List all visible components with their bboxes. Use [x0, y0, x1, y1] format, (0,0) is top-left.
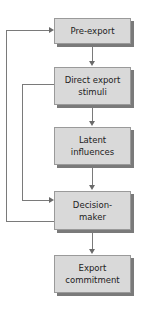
arrow-down-icon: [89, 249, 95, 254]
outer-loop-bottom: [6, 221, 54, 222]
inner-loop-bottom: [22, 200, 50, 201]
node-label: Pre-export: [70, 25, 114, 37]
arrow-down-icon: [89, 61, 95, 66]
outer-loop-vertical: [6, 30, 7, 222]
node-pre-export: Pre-export: [54, 18, 131, 44]
node-label: Exportcommitment: [65, 262, 119, 286]
arrow-right-icon: [49, 197, 54, 203]
node-label: Decision-maker: [73, 199, 112, 223]
inner-loop-top: [22, 84, 54, 85]
inner-loop-vertical: [22, 84, 23, 201]
arrow-down-icon: [89, 121, 95, 126]
arrow-right-icon: [49, 27, 54, 33]
node-label: Direct exportstimuli: [65, 74, 121, 98]
arrow-down-icon: [89, 185, 95, 190]
node-direct-export-stimuli: Direct exportstimuli: [54, 67, 131, 105]
node-decision-maker: Decision-maker: [54, 191, 131, 230]
outer-loop-top: [6, 30, 50, 31]
node-export-commitment: Exportcommitment: [54, 255, 131, 293]
node-latent-influences: Latentinfluences: [54, 127, 131, 165]
node-label: Latentinfluences: [71, 134, 114, 158]
